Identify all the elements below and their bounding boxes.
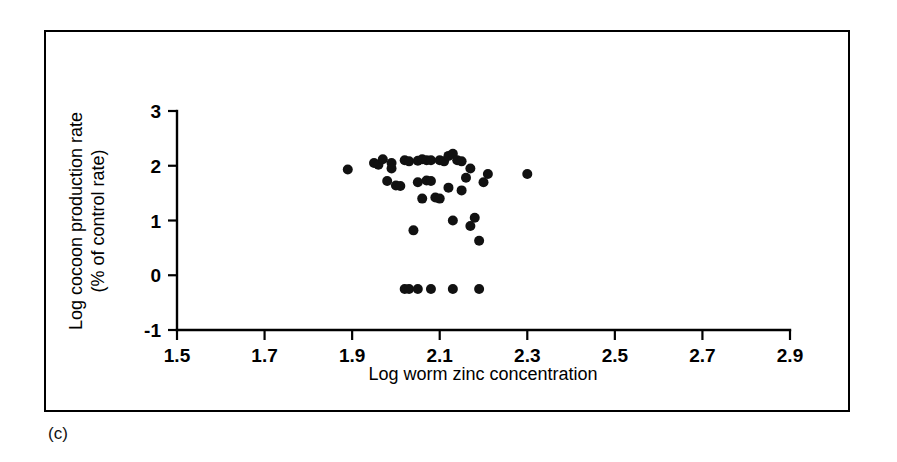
data-points-group <box>343 149 533 294</box>
data-point <box>378 154 388 164</box>
data-point <box>474 236 484 246</box>
data-point <box>457 156 467 166</box>
x-tick-label: 2.3 <box>514 345 540 366</box>
data-point <box>426 176 436 186</box>
data-point <box>457 185 467 195</box>
y-tick-label: 3 <box>150 101 161 122</box>
x-tick-label: 2.5 <box>602 345 629 366</box>
x-tick-label: 2.9 <box>777 345 803 366</box>
figure-border: -10123 1.51.71.92.12.32.52.72.9 Log worm… <box>44 30 850 412</box>
x-axis-tick-labels: 1.51.71.92.12.32.52.72.9 <box>164 345 803 366</box>
data-point <box>443 183 453 193</box>
y-axis-ticks <box>168 111 177 330</box>
x-tick-label: 1.5 <box>164 345 191 366</box>
data-point <box>426 284 436 294</box>
x-tick-label: 1.7 <box>251 345 277 366</box>
panel-label: (c) <box>48 424 68 444</box>
x-axis-title: Log worm zinc concentration <box>368 364 597 384</box>
data-point <box>413 177 423 187</box>
x-tick-label: 2.7 <box>689 345 715 366</box>
scatter-plot-svg: -10123 1.51.71.92.12.32.52.72.9 Log worm… <box>46 32 848 410</box>
data-point <box>470 213 480 223</box>
data-point <box>387 163 397 173</box>
data-point <box>413 284 423 294</box>
y-axis-title: Log cocoon production rate (% of control… <box>66 112 108 330</box>
data-point <box>395 181 405 191</box>
data-point <box>474 284 484 294</box>
data-point <box>465 163 475 173</box>
y-tick-label: 2 <box>150 156 161 177</box>
data-point <box>426 155 436 165</box>
data-point <box>448 284 458 294</box>
data-point <box>461 173 471 183</box>
x-tick-label: 1.9 <box>339 345 365 366</box>
data-point <box>483 169 493 179</box>
data-point <box>408 225 418 235</box>
data-point <box>343 165 353 175</box>
data-point <box>404 156 414 166</box>
y-tick-label: 1 <box>150 211 161 232</box>
data-point <box>435 194 445 204</box>
y-axis-title-line1: Log cocoon production rate <box>66 112 86 330</box>
data-point <box>417 194 427 204</box>
y-tick-label: -1 <box>144 320 161 341</box>
y-axis-title-line2: (% of control rate) <box>88 149 108 292</box>
x-axis-ticks <box>177 330 790 340</box>
y-axis-tick-labels: -10123 <box>144 101 161 341</box>
y-tick-label: 0 <box>150 265 161 286</box>
data-point <box>448 216 458 226</box>
figure-container: -10123 1.51.71.92.12.32.52.72.9 Log worm… <box>0 0 897 462</box>
data-point <box>522 169 532 179</box>
data-point <box>404 284 414 294</box>
data-point <box>382 176 392 186</box>
x-tick-label: 2.1 <box>427 345 454 366</box>
